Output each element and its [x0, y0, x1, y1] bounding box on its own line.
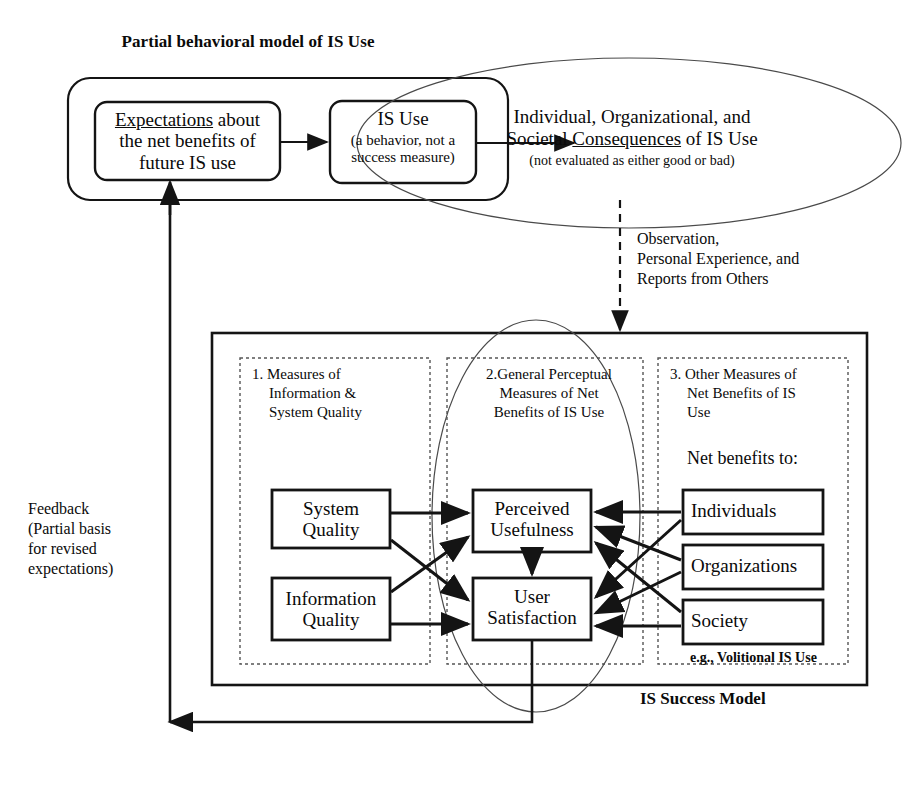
user-satisfaction-line1: User [471, 586, 593, 607]
information-quality-line2: Quality [270, 609, 392, 630]
group-3-line2: Net Benefits of IS [670, 384, 845, 403]
group-3-line1: Other Measures of [685, 366, 797, 382]
expectations-keyword: Expectations [115, 109, 213, 130]
feedback-line1: Feedback [28, 499, 178, 519]
group-3-number: 3. [670, 366, 681, 382]
is-use-sub1: (a behavior, not a [330, 132, 476, 149]
consequences-line1: Individual, Organizational, and [457, 106, 807, 128]
feedback-path-horizontal [170, 641, 532, 722]
group-1-number: 1. [252, 366, 263, 382]
perceived-usefulness-box: Perceived Usefulness [471, 498, 593, 541]
expectations-line2: the net benefits of [95, 130, 280, 151]
observation-line2: Personal Experience, and [637, 249, 907, 269]
group-heading-1: 1. Measures of Information & System Qual… [252, 365, 427, 423]
page-title: Partial behavioral model of IS Use [88, 32, 408, 51]
expectations-line1-rest: about [213, 109, 260, 130]
consequences-line2-post: of IS Use [681, 128, 758, 149]
net-benefits-label: Net benefits to: [687, 448, 867, 468]
perceived-usefulness-line2: Usefulness [471, 519, 593, 540]
user-satisfaction-line2: Satisfaction [471, 607, 593, 628]
information-quality-line1: Information [270, 588, 392, 609]
feedback-line4: expectations) [28, 559, 178, 579]
volitional-note: e.g., Volitional IS Use [666, 650, 841, 666]
consequences-keyword: Consequences [572, 128, 681, 149]
consequences-line2-pre: Societal [506, 128, 572, 149]
group-2-number: 2. [486, 366, 497, 382]
organizations-box: Organizations [691, 555, 831, 576]
is-use-box: IS Use (a behavior, not a success measur… [330, 108, 476, 166]
system-quality-box: System Quality [272, 498, 390, 541]
observation-line1: Observation, [637, 229, 907, 249]
observation-line3: Reports from Others [637, 269, 907, 289]
group-heading-2: 2.General Perceptual Measures of Net Ben… [456, 365, 642, 423]
consequences-sub: (not evaluated as either good or bad) [457, 153, 807, 169]
group-1-line1: Measures of [267, 366, 341, 382]
observation-label: Observation, Personal Experience, and Re… [637, 229, 907, 289]
system-quality-line2: Quality [272, 519, 390, 540]
group-1-line2: Information & [252, 384, 427, 403]
user-satisfaction-box: User Satisfaction [471, 586, 593, 629]
consequences-label: Individual, Organizational, and Societal… [457, 106, 807, 168]
diagram-canvas: Partial behavioral model of IS Use Expec… [0, 0, 919, 792]
information-quality-box: Information Quality [270, 588, 392, 631]
feedback-line3: for revised [28, 539, 178, 559]
perceived-usefulness-line1: Perceived [471, 498, 593, 519]
group-2-line1: General Perceptual [497, 366, 612, 382]
feedback-label: Feedback (Partial basis for revised expe… [28, 499, 178, 579]
group-1-line3: System Quality [252, 403, 427, 422]
group-3-line3: Use [670, 403, 845, 422]
expectations-line3: future IS use [95, 152, 280, 173]
expectations-box: Expectations about the net benefits of f… [95, 109, 280, 173]
is-use-sub2: success measure) [330, 149, 476, 166]
is-use-title: IS Use [330, 108, 476, 129]
feedback-line2: (Partial basis [28, 519, 178, 539]
group-2-line2: Measures of Net [456, 384, 642, 403]
system-quality-line1: System [272, 498, 390, 519]
society-box: Society [691, 610, 831, 631]
group-2-line3: Benefits of IS Use [456, 403, 642, 422]
is-success-model-label: IS Success Model [640, 689, 870, 708]
group-heading-3: 3. Other Measures of Net Benefits of IS … [670, 365, 845, 423]
individuals-box: Individuals [691, 500, 831, 521]
